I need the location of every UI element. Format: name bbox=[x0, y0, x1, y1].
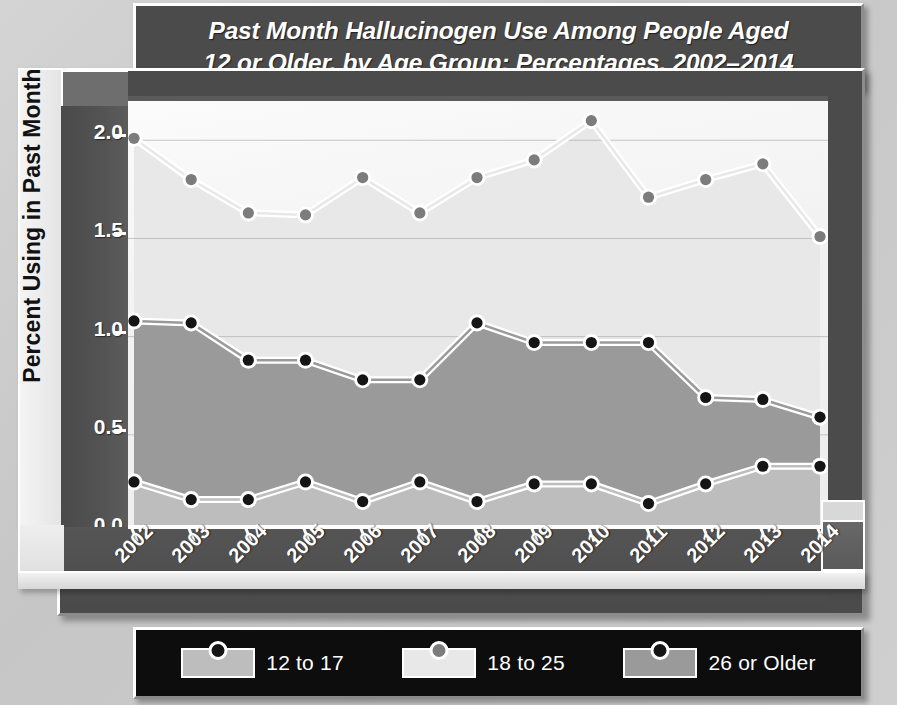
data-point-12-to-17-11 bbox=[757, 461, 768, 472]
y-tick-label-3: 1.5 bbox=[61, 218, 123, 242]
data-point-12-to-17-2 bbox=[243, 494, 254, 505]
data-point-18-to-25-6 bbox=[471, 172, 482, 183]
legend-item-1[interactable]: 18 to 25 bbox=[402, 648, 565, 678]
data-point-26-or-older-5 bbox=[414, 374, 425, 385]
legend-item-2[interactable]: 26 or Older bbox=[623, 648, 815, 678]
data-point-12-to-17-1 bbox=[186, 494, 197, 505]
data-point-26-or-older-3 bbox=[300, 355, 311, 366]
legend-label-0: 12 to 17 bbox=[266, 651, 344, 675]
data-point-26-or-older-1 bbox=[186, 317, 197, 328]
data-point-18-to-25-1 bbox=[186, 174, 197, 185]
legend-swatch-1 bbox=[402, 648, 476, 678]
data-point-18-to-25-12 bbox=[814, 231, 825, 242]
legend-marker-circle-icon-1 bbox=[430, 641, 449, 660]
plot-area bbox=[128, 96, 828, 528]
data-point-18-to-25-7 bbox=[529, 154, 540, 165]
legend-swatch-2 bbox=[623, 648, 697, 678]
data-point-26-or-older-0 bbox=[128, 315, 139, 326]
data-point-18-to-25-10 bbox=[700, 174, 711, 185]
data-point-12-to-17-3 bbox=[300, 476, 311, 487]
y-tick-mark-1 bbox=[114, 429, 126, 432]
series-canvas bbox=[128, 101, 828, 533]
data-point-12-to-17-7 bbox=[529, 478, 540, 489]
data-point-12-to-17-0 bbox=[128, 476, 139, 487]
data-point-18-to-25-9 bbox=[643, 192, 654, 203]
y-tick-mark-4 bbox=[114, 134, 126, 137]
data-point-12-to-17-10 bbox=[700, 478, 711, 489]
y-tick-mark-2 bbox=[114, 331, 126, 334]
legend-marker-circle-icon-2 bbox=[651, 641, 670, 660]
chart-legend: 12 to 17 18 to 25 26 or Older bbox=[133, 627, 864, 699]
data-point-12-to-17-6 bbox=[471, 496, 482, 507]
legend-swatch-0 bbox=[181, 648, 255, 678]
y-tick-mark-3 bbox=[114, 232, 126, 235]
data-point-12-to-17-12 bbox=[814, 461, 825, 472]
data-point-26-or-older-12 bbox=[814, 412, 825, 423]
legend-item-0[interactable]: 12 to 17 bbox=[181, 648, 344, 678]
data-point-18-to-25-2 bbox=[243, 207, 254, 218]
y-tick-label-2: 1.0 bbox=[61, 317, 123, 341]
y-axis-top-face bbox=[61, 70, 128, 106]
y-tick-label-4: 2.0 bbox=[61, 120, 123, 144]
legend-label-2: 26 or Older bbox=[708, 651, 815, 675]
data-point-26-or-older-6 bbox=[471, 317, 482, 328]
data-point-18-to-25-8 bbox=[586, 115, 597, 126]
data-point-26-or-older-9 bbox=[643, 337, 654, 348]
data-point-12-to-17-5 bbox=[414, 476, 425, 487]
data-point-12-to-17-4 bbox=[357, 496, 368, 507]
data-point-12-to-17-9 bbox=[643, 498, 654, 509]
data-point-26-or-older-2 bbox=[243, 355, 254, 366]
data-point-26-or-older-7 bbox=[529, 337, 540, 348]
data-point-26-or-older-11 bbox=[757, 394, 768, 405]
y-tick-label-1: 0.5 bbox=[61, 415, 123, 439]
y-axis-title: Percent Using in Past Month bbox=[19, 6, 46, 446]
data-point-18-to-25-11 bbox=[757, 158, 768, 169]
data-point-18-to-25-4 bbox=[357, 172, 368, 183]
data-point-18-to-25-3 bbox=[300, 209, 311, 220]
data-point-18-to-25-0 bbox=[128, 133, 139, 144]
data-point-26-or-older-4 bbox=[357, 374, 368, 385]
legend-marker-circle-icon-0 bbox=[209, 641, 228, 660]
floor-strip bbox=[18, 571, 865, 589]
legend-label-1: 18 to 25 bbox=[487, 651, 565, 675]
data-point-26-or-older-10 bbox=[700, 392, 711, 403]
data-point-26-or-older-8 bbox=[586, 337, 597, 348]
data-point-18-to-25-5 bbox=[414, 207, 425, 218]
data-point-12-to-17-8 bbox=[586, 478, 597, 489]
